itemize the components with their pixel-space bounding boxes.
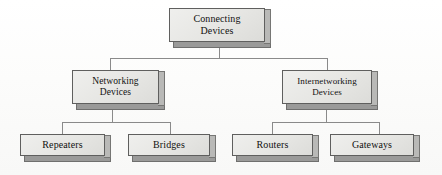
node-side-face — [371, 71, 378, 106]
connector-root-bus — [110, 58, 328, 59]
node-repeaters[interactable]: Repeaters — [20, 134, 111, 162]
node-routers[interactable]: Routers — [232, 134, 319, 162]
node-side-face — [312, 135, 319, 158]
node-side-face — [413, 135, 420, 158]
node-front-face: Routers — [232, 134, 313, 156]
node-label-gateways: Gateways — [349, 139, 395, 151]
connector-networking-bus — [62, 122, 171, 123]
connecting-devices-diagram: Connecting Devices Networking Devices In… — [0, 0, 442, 175]
connector-to-bridges — [170, 122, 171, 134]
node-front-face: Repeaters — [20, 134, 105, 156]
node-front-face: Connecting Devices — [169, 8, 265, 42]
connector-to-repeaters — [62, 122, 63, 134]
node-side-face — [158, 71, 165, 106]
node-networking-devices[interactable]: Networking Devices — [72, 70, 165, 110]
connector-internetworking-stem — [326, 108, 327, 122]
node-label-networking-devices: Networking Devices — [89, 76, 141, 98]
node-label-routers: Routers — [254, 139, 292, 151]
connector-to-gateways — [379, 122, 380, 134]
node-label-connecting-devices: Connecting Devices — [190, 13, 243, 37]
node-label-internetworking-devices: Internetworking Devices — [294, 76, 359, 97]
connector-to-routers — [272, 122, 273, 134]
connector-networking-stem — [112, 108, 113, 122]
node-side-face — [264, 9, 271, 44]
node-connecting-devices[interactable]: Connecting Devices — [169, 8, 271, 48]
node-bridges[interactable]: Bridges — [128, 134, 216, 162]
node-front-face: Gateways — [330, 134, 414, 156]
node-front-face: Bridges — [128, 134, 210, 156]
node-label-bridges: Bridges — [150, 139, 188, 151]
node-label-repeaters: Repeaters — [39, 139, 85, 151]
node-gateways[interactable]: Gateways — [330, 134, 420, 162]
node-front-face: Internetworking Devices — [282, 70, 372, 104]
node-side-face — [209, 135, 216, 158]
node-front-face: Networking Devices — [72, 70, 159, 104]
connector-internetworking-bus — [272, 122, 380, 123]
node-side-face — [104, 135, 111, 158]
node-internetworking-devices[interactable]: Internetworking Devices — [282, 70, 378, 110]
